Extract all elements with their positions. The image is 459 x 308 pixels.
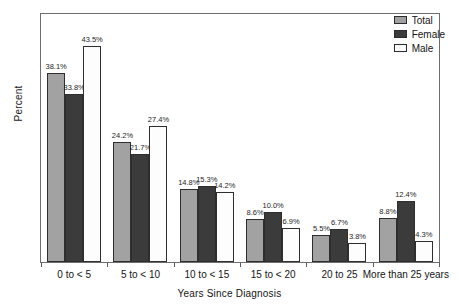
bar-rect[interactable] — [216, 192, 234, 262]
bar-rect[interactable] — [65, 94, 83, 262]
x-axis-tick-mark — [174, 263, 175, 267]
x-axis-tick-label: 5 to < 10 — [121, 269, 160, 280]
x-axis-tick-mark — [439, 263, 440, 267]
bar-female[interactable]: 10.0% — [264, 14, 282, 262]
bar-value-label: 3.8% — [349, 233, 366, 241]
bar-rect[interactable] — [83, 46, 101, 262]
bar-total[interactable]: 24.2% — [113, 14, 131, 262]
bar-value-label: 33.8% — [64, 84, 85, 92]
bar-value-label: 38.1% — [46, 63, 67, 71]
x-axis-tick-mark — [306, 263, 307, 267]
bar-female[interactable]: 21.7% — [131, 14, 149, 262]
bar-total[interactable]: 8.6% — [246, 14, 264, 262]
bar-rect[interactable] — [282, 228, 300, 262]
x-axis-tick-mark — [41, 263, 42, 267]
bar-value-label: 24.2% — [112, 132, 133, 140]
bar-value-label: 14.2% — [214, 182, 235, 190]
bar-rect[interactable] — [397, 201, 415, 263]
bar-female[interactable]: 15.3% — [198, 14, 216, 262]
x-axis-tick-label: 15 to < 20 — [251, 269, 296, 280]
bar-group: 5.5%6.7%3.8% — [306, 14, 372, 262]
bar-value-label: 8.8% — [379, 208, 396, 216]
bar-female[interactable]: 12.4% — [397, 14, 415, 262]
bar-value-label: 12.4% — [395, 191, 416, 199]
x-axis-tick-mark — [107, 263, 108, 267]
bar-rect[interactable] — [415, 241, 433, 262]
bar-value-label: 43.5% — [82, 36, 103, 44]
bar-rect[interactable] — [149, 126, 167, 262]
bar-rect[interactable] — [330, 229, 348, 262]
bar-male[interactable]: 4.3% — [415, 14, 433, 262]
bar-female[interactable]: 6.7% — [330, 14, 348, 262]
bar-value-label: 6.7% — [331, 219, 348, 227]
bar-male[interactable]: 27.4% — [149, 14, 167, 262]
bar-group: 24.2%21.7%27.4% — [107, 14, 173, 262]
bar-value-label: 6.9% — [283, 218, 300, 226]
bar-rect[interactable] — [246, 219, 264, 262]
x-axis-tick-label: More than 25 years — [363, 269, 449, 280]
bar-male[interactable]: 3.8% — [348, 14, 366, 262]
bar-male[interactable]: 43.5% — [83, 14, 101, 262]
x-axis-title: Years Since Diagnosis — [0, 288, 459, 299]
bar-total[interactable]: 14.8% — [180, 14, 198, 262]
bar-value-label: 27.4% — [148, 116, 169, 124]
x-axis-tick-label: 20 to 25 — [321, 269, 357, 280]
bar-group: 8.6%10.0%6.9% — [240, 14, 306, 262]
x-axis-tick-label: 0 to < 5 — [57, 269, 91, 280]
bar-rect[interactable] — [113, 142, 131, 262]
bar-male[interactable]: 6.9% — [282, 14, 300, 262]
plot-area: 38.1%33.8%43.5%24.2%21.7%27.4%14.8%15.3%… — [41, 14, 439, 262]
bar-total[interactable]: 38.1% — [47, 14, 65, 262]
bar-group: 14.8%15.3%14.2% — [174, 14, 240, 262]
bar-chart: Percent Total Female Male 38.1%33.8%43.5… — [0, 0, 459, 308]
bar-rect[interactable] — [348, 243, 366, 262]
bar-rect[interactable] — [198, 186, 216, 262]
bar-rect[interactable] — [180, 189, 198, 262]
bar-value-label: 10.0% — [263, 202, 284, 210]
bar-total[interactable]: 8.8% — [379, 14, 397, 262]
x-axis-tick-label: 10 to < 15 — [184, 269, 229, 280]
x-axis-tick-mark — [373, 263, 374, 267]
bar-value-label: 21.7% — [130, 144, 151, 152]
y-axis-title: Percent — [13, 64, 24, 144]
bar-rect[interactable] — [379, 218, 397, 262]
bar-group: 8.8%12.4%4.3% — [373, 14, 439, 262]
bar-male[interactable]: 14.2% — [216, 14, 234, 262]
bar-rect[interactable] — [131, 154, 149, 262]
bar-female[interactable]: 33.8% — [65, 14, 83, 262]
bar-rect[interactable] — [264, 212, 282, 262]
bar-value-label: 4.3% — [415, 231, 432, 239]
bar-rect[interactable] — [47, 73, 65, 262]
bar-rect[interactable] — [312, 235, 330, 262]
x-axis-tick-mark — [240, 263, 241, 267]
bar-group: 38.1%33.8%43.5% — [41, 14, 107, 262]
bar-total[interactable]: 5.5% — [312, 14, 330, 262]
bar-value-label: 8.6% — [247, 209, 264, 217]
bar-value-label: 5.5% — [313, 225, 330, 233]
